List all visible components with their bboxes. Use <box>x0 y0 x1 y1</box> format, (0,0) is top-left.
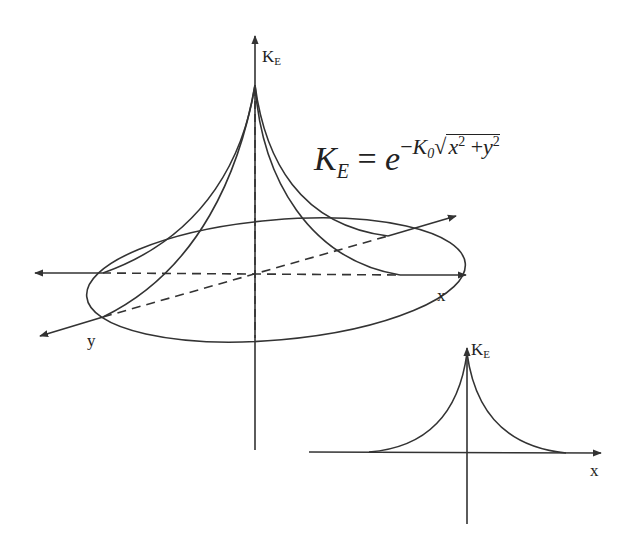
surface-curve-left-inner <box>103 85 255 317</box>
surface-curve-left-outer <box>103 85 255 273</box>
equation: KE = e−K0√x2 +y2 <box>314 142 500 181</box>
main-x-axis-label: x <box>437 286 446 305</box>
equation-radicand: x2 +y2 <box>446 134 499 158</box>
base-ellipse <box>81 204 470 357</box>
inset-x-axis-label: x <box>590 461 599 480</box>
diagram-canvas: KE x y KE x KE = e−K0√x2 +y2 <box>0 0 636 554</box>
inset-vertical-axis-label: KE <box>471 340 490 360</box>
main-y-axis-label: y <box>87 331 96 350</box>
equation-lhs-sub: E <box>337 160 349 182</box>
inset-2d-plot <box>309 348 601 524</box>
diagram-svg: KE x y KE x <box>0 0 636 554</box>
main-vertical-axis-label: KE <box>262 47 281 67</box>
y-axis-hidden <box>103 236 388 317</box>
equation-exponent: −K0√x2 +y2 <box>400 134 500 159</box>
y-axis-back <box>388 216 456 236</box>
main-3d-plot <box>35 36 471 450</box>
equation-lhs: K <box>314 140 337 177</box>
equation-base: e <box>385 140 400 177</box>
equation-equals: = <box>357 140 376 177</box>
